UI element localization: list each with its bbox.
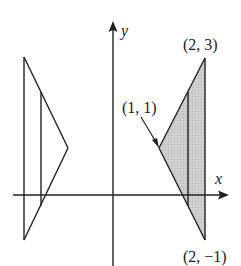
point-label-1-1: (1, 1) (122, 99, 157, 117)
diagram-canvas: y x (2, 3) (1, 1) (2, −1) (0, 0, 241, 266)
x-axis-label: x (214, 170, 222, 187)
pointer-line (141, 117, 156, 142)
left-lower-edge (24, 148, 68, 240)
shaded-region (159, 58, 205, 240)
y-axis-label: y (119, 22, 129, 40)
pointer-arrow-icon (152, 138, 159, 148)
left-upper-edge (24, 57, 68, 148)
point-label-2-neg1: (2, −1) (183, 248, 227, 266)
point-label-2-3: (2, 3) (183, 36, 218, 54)
